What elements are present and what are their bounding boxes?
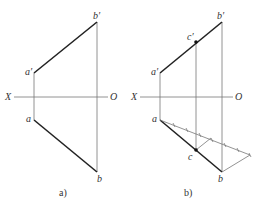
label-c: c [188, 151, 193, 162]
line-ab-front [34, 22, 97, 73]
caption-a: a) [59, 187, 67, 199]
closing-line [222, 155, 250, 172]
label-c-prime: c′ [187, 31, 194, 42]
auxiliary-division-line [160, 120, 250, 155]
parallel-line [196, 138, 211, 150]
point-c [194, 148, 198, 152]
line-ab-top [160, 120, 222, 172]
figure-b: b′ c′ a′ X O a c b b) [130, 10, 251, 199]
label-b-prime: b′ [217, 10, 225, 21]
label-b-prime: b′ [93, 10, 101, 21]
label-a-prime: a′ [25, 66, 33, 77]
label-b: b [97, 173, 102, 184]
label-a: a [152, 113, 157, 124]
label-o: O [110, 91, 117, 102]
label-a: a [26, 113, 31, 124]
caption-b: b) [184, 187, 192, 199]
line-ab-front [160, 22, 222, 73]
label-o: O [235, 91, 242, 102]
projection-diagram: b′ a′ X O a b a) b′ c′ a′ X [0, 0, 261, 205]
label-x: X [4, 91, 12, 102]
label-x: X [130, 91, 138, 102]
label-a-prime: a′ [151, 66, 159, 77]
point-c-prime [194, 40, 198, 44]
label-b: b [218, 173, 223, 184]
line-ab-top [34, 120, 97, 172]
figure-a: b′ a′ X O a b a) [4, 10, 117, 199]
